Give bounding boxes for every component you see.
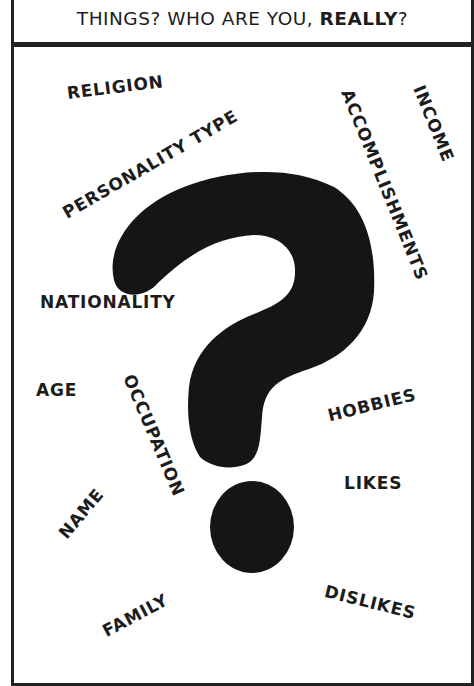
word-age: AGE [36, 382, 77, 399]
word-likes: LIKES [344, 475, 402, 492]
caption-suffix: ? [398, 8, 408, 29]
comic-panel: RELIGION PERSONALITY TYPE ACCOMPLISHMENT… [11, 44, 474, 686]
caption-emphasis: REALLY [320, 8, 398, 29]
word-nationality: NATIONALITY [40, 294, 176, 311]
caption-text: THINGS? WHO ARE YOU, REALLY? [14, 8, 471, 29]
caption-panel: THINGS? WHO ARE YOU, REALLY? [11, 0, 474, 45]
question-mark-icon [14, 47, 471, 683]
caption-prefix: THINGS? WHO ARE YOU, [77, 8, 320, 29]
